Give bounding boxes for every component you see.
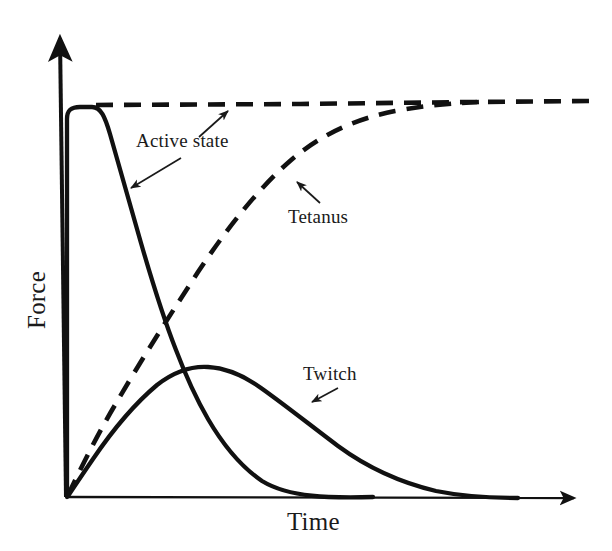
leader-tetanus-to-curve xyxy=(297,182,320,203)
tetanus-dashed-rise xyxy=(68,102,480,495)
twitch-solid-decay xyxy=(68,367,518,498)
curve-label-tetanus: Tetanus xyxy=(288,206,348,228)
curve-label-twitch: Twitch xyxy=(303,363,357,385)
curve-label-active-state: Active state xyxy=(136,130,229,152)
x-axis-label: Time xyxy=(287,508,340,536)
leader-active-state-to-curve xyxy=(131,158,181,188)
figure-force-vs-time: Active state Tetanus Twitch Time Force xyxy=(0,0,612,551)
leader-twitch-to-curve xyxy=(312,388,338,402)
plot-canvas xyxy=(0,0,612,551)
active-state-dashed-plateau xyxy=(96,101,592,105)
y-axis-label: Force xyxy=(23,257,51,343)
annotation-leaders xyxy=(131,111,338,402)
